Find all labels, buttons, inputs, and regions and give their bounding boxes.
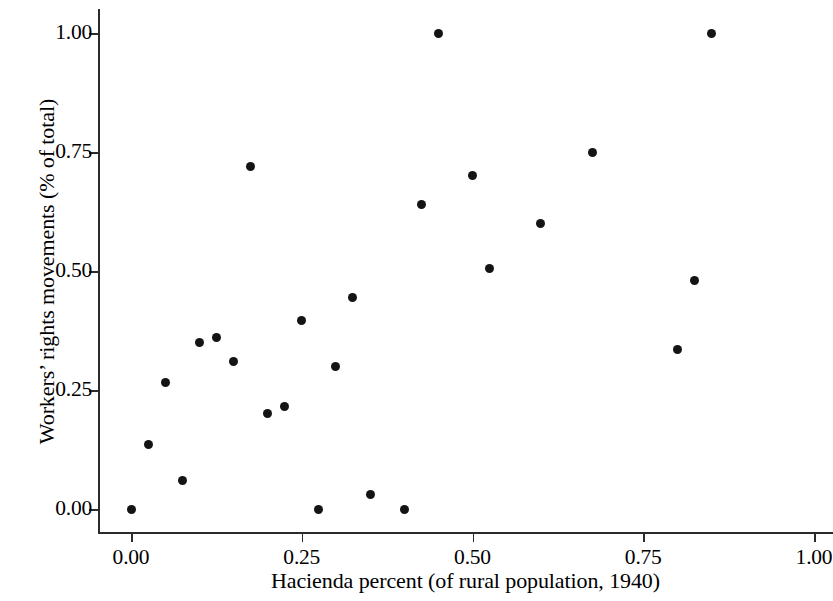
x-tick-mark [814,533,816,542]
x-tick-mark [643,533,645,542]
scatter-plot-figure: 0.000.250.500.751.00 0.000.250.500.751.0… [0,0,833,601]
x-axis-title: Hacienda percent (of rural population, 1… [98,568,833,594]
x-tick-mark [473,533,475,542]
data-point [195,338,204,347]
data-point [212,333,221,342]
x-tick-label: 0.00 [113,545,150,570]
data-point [434,29,443,38]
x-tick-label: 1.00 [796,545,833,570]
data-point [229,357,238,366]
data-point [297,316,306,325]
data-point [246,162,255,171]
data-point [161,378,170,387]
x-tick-label: 0.25 [283,545,320,570]
x-tick-mark [131,533,133,542]
plot-area: 0.000.250.500.751.00 [98,9,833,533]
data-point [280,402,289,411]
data-point [673,345,682,354]
data-point [127,505,136,514]
data-point [400,505,409,514]
x-tick-mark [302,533,304,542]
x-tick-label: 0.75 [625,545,662,570]
data-point [314,505,323,514]
data-point [178,476,187,485]
data-point [417,200,426,209]
data-point [690,276,699,285]
data-point [588,148,597,157]
data-point [468,171,477,180]
data-point [144,440,153,449]
data-point [485,264,494,273]
x-tick-label: 0.50 [454,545,491,570]
data-point [366,490,375,499]
data-point [263,409,272,418]
data-point [707,29,716,38]
data-point [536,219,545,228]
data-point [331,362,340,371]
y-axis-title: Workers’ rights movements (% of total) [30,9,64,534]
data-point [348,293,357,302]
